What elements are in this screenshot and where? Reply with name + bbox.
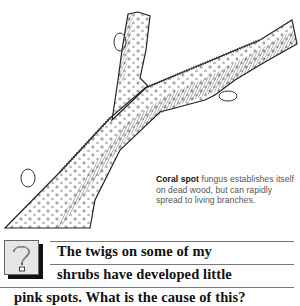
question-mark-icon <box>5 241 38 274</box>
question-line-1: The twigs on some of my <box>57 243 212 260</box>
rule-bottom <box>0 287 294 288</box>
illustration-caption: Coral spot fungus establishes itself on … <box>156 174 298 206</box>
caption-bold-term: Coral spot <box>156 174 199 184</box>
question-line-3: pink spots. What is the cause of this? <box>14 289 246 306</box>
question-line-2: shrubs have developed little <box>57 266 232 283</box>
rule-middle <box>50 264 294 265</box>
question-icon-box <box>4 240 39 275</box>
rule-top <box>50 241 294 242</box>
